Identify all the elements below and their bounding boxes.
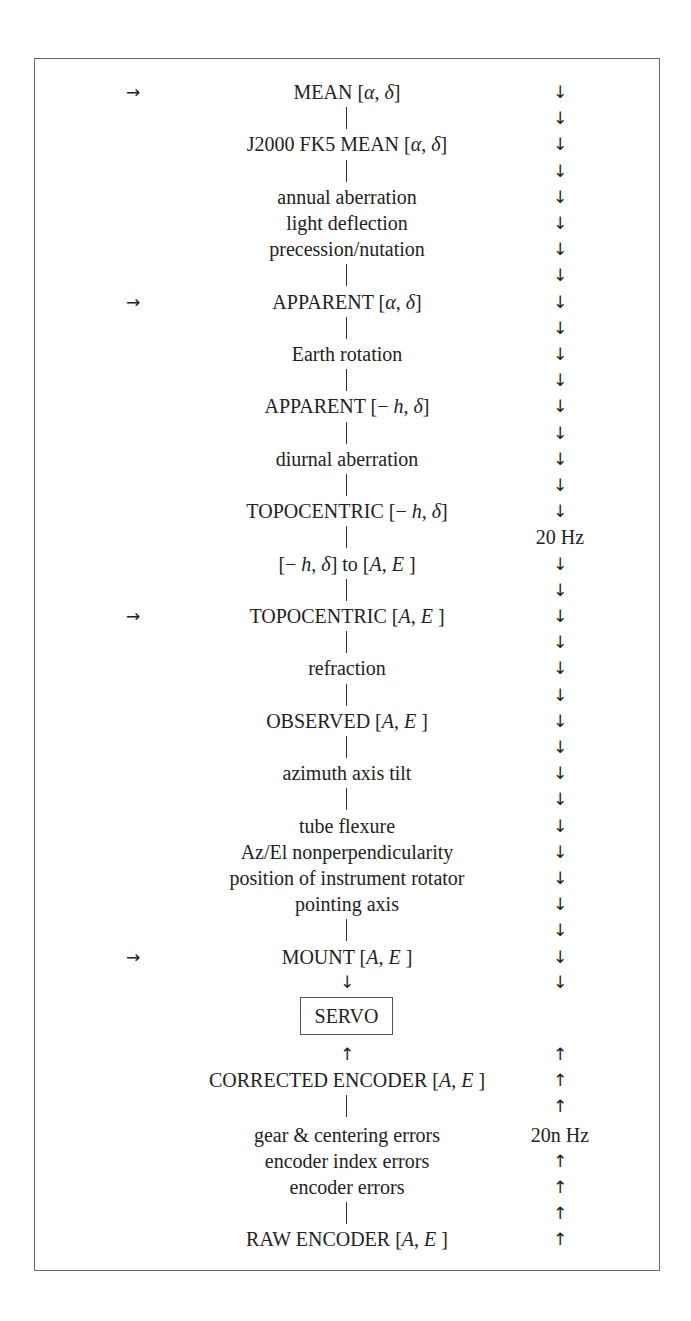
node-apparent-h-delta: APPARENT [− h, δ] <box>264 393 429 419</box>
row-light-deflection: light deflection ↓ <box>0 210 691 236</box>
connector-line <box>346 684 347 706</box>
step-encoder-errors: encoder errors <box>290 1174 405 1200</box>
node-topocentric-a-e: TOPOCENTRIC [A, E ] <box>249 603 444 629</box>
down-arrow-icon: ↓ <box>553 105 567 131</box>
step-gear-centering-errors: gear & centering errors <box>254 1122 440 1148</box>
row-connector: ↑ <box>0 1093 691 1119</box>
row-precession-nutation: precession/nutation ↓ <box>0 236 691 262</box>
down-arrow-icon: ↓ <box>553 969 567 995</box>
row-gear-centering: gear & centering errors 20n Hz <box>0 1122 691 1148</box>
up-arrow-icon: ↑ <box>553 1041 567 1067</box>
step-light-deflection: light deflection <box>286 210 408 236</box>
down-arrow-icon: ↓ <box>553 839 567 865</box>
row-connector: ↑ <box>0 1200 691 1226</box>
up-arrow-icon: ↑ <box>340 1041 354 1067</box>
row-corrected-encoder: CORRECTED ENCODER [A, E ] ↑ <box>0 1067 691 1093</box>
down-arrow-icon: ↓ <box>553 236 567 262</box>
rate-label-20n-hz: 20n Hz <box>531 1122 589 1148</box>
node-mount-a-e: MOUNT [A, E ] <box>282 944 413 970</box>
row-observed: OBSERVED [A, E ] ↓ <box>0 708 691 734</box>
connector-line <box>346 1095 347 1117</box>
row-topocentric-h-delta: TOPOCENTRIC [− h, δ] ↓ <box>0 498 691 524</box>
servo-box: SERVO <box>300 997 393 1035</box>
node-raw-encoder: RAW ENCODER [A, E ] <box>246 1226 448 1252</box>
down-arrow-icon: ↓ <box>553 786 567 812</box>
down-arrow-icon: ↓ <box>553 917 567 943</box>
row-apparent-alpha-delta: → APPARENT [α, δ] ↓ <box>0 289 691 315</box>
up-arrow-icon: ↑ <box>553 1093 567 1119</box>
row-connector: ↓ <box>0 420 691 446</box>
up-arrow-icon: ↑ <box>553 1067 567 1093</box>
up-arrow-icon: ↑ <box>553 1174 567 1200</box>
row-refraction: refraction ↓ <box>0 655 691 681</box>
step-pointing-axis: pointing axis <box>295 891 399 917</box>
down-arrow-icon: ↓ <box>553 367 567 393</box>
row-apparent-h-delta: APPARENT [− h, δ] ↓ <box>0 393 691 419</box>
row-h-delta-to-a-e: [− h, δ] to [A, E ] ↓ <box>0 551 691 577</box>
row-connector: ↓ <box>0 917 691 943</box>
row-az-el-nonperpendicularity: Az/El nonperpendicularity ↓ <box>0 839 691 865</box>
row-encoder-index-errors: encoder index errors ↑ <box>0 1148 691 1174</box>
down-arrow-icon: ↓ <box>553 629 567 655</box>
step-encoder-index-errors: encoder index errors <box>265 1148 429 1174</box>
down-arrow-icon: ↓ <box>553 655 567 681</box>
row-connector: ↓ <box>0 472 691 498</box>
step-instrument-rotator-position: position of instrument rotator <box>230 865 465 891</box>
down-arrow-icon: ↓ <box>553 131 567 157</box>
step-refraction: refraction <box>308 655 386 681</box>
down-arrow-icon: ↓ <box>553 813 567 839</box>
step-tube-flexure: tube flexure <box>299 813 395 839</box>
down-arrow-icon: ↓ <box>553 158 567 184</box>
connector-line <box>346 526 347 548</box>
right-arrow-icon: → <box>126 603 140 629</box>
up-arrow-icon: ↑ <box>553 1148 567 1174</box>
connector-line <box>346 1202 347 1224</box>
connector-line <box>346 736 347 758</box>
row-connector: ↓ <box>0 262 691 288</box>
row-mean: → MEAN [α, δ] ↓ <box>0 79 691 105</box>
down-arrow-icon: ↓ <box>553 891 567 917</box>
up-arrow-icon: ↑ <box>553 1200 567 1226</box>
down-arrow-icon: ↓ <box>553 944 567 970</box>
down-arrow-icon: ↓ <box>553 393 567 419</box>
connector-line <box>346 631 347 653</box>
step-precession-nutation: precession/nutation <box>269 236 425 262</box>
right-arrow-icon: → <box>126 79 140 105</box>
down-arrow-icon: ↓ <box>553 865 567 891</box>
down-arrow-icon: ↓ <box>553 708 567 734</box>
down-arrow-icon: ↓ <box>553 341 567 367</box>
down-arrow-icon: ↓ <box>553 734 567 760</box>
row-connector-rate: 20 Hz <box>0 524 691 550</box>
row-from-encoder: ↑ ↑ <box>0 1041 691 1067</box>
down-arrow-icon: ↓ <box>553 262 567 288</box>
down-arrow-icon: ↓ <box>553 446 567 472</box>
down-arrow-icon: ↓ <box>340 969 354 995</box>
row-instrument-rotator: position of instrument rotator ↓ <box>0 865 691 891</box>
down-arrow-icon: ↓ <box>553 184 567 210</box>
right-arrow-icon: → <box>126 944 140 970</box>
rate-label-20hz: 20 Hz <box>536 524 584 550</box>
row-encoder-errors: encoder errors ↑ <box>0 1174 691 1200</box>
row-topocentric-a-e: → TOPOCENTRIC [A, E ] ↓ <box>0 603 691 629</box>
row-diurnal-aberration: diurnal aberration ↓ <box>0 446 691 472</box>
connector-line <box>346 919 347 941</box>
connector-line <box>346 422 347 444</box>
down-arrow-icon: ↓ <box>553 472 567 498</box>
down-arrow-icon: ↓ <box>553 79 567 105</box>
node-topocentric-h-delta: TOPOCENTRIC [− h, δ] <box>246 498 447 524</box>
row-tube-flexure: tube flexure ↓ <box>0 813 691 839</box>
down-arrow-icon: ↓ <box>553 420 567 446</box>
down-arrow-icon: ↓ <box>553 603 567 629</box>
down-arrow-icon: ↓ <box>553 682 567 708</box>
connector-line <box>346 160 347 182</box>
right-arrow-icon: → <box>126 289 140 315</box>
row-connector: ↓ <box>0 105 691 131</box>
down-arrow-icon: ↓ <box>553 210 567 236</box>
connector-line <box>346 788 347 810</box>
node-corrected-encoder: CORRECTED ENCODER [A, E ] <box>209 1067 485 1093</box>
step-h-delta-to-a-e: [− h, δ] to [A, E ] <box>278 551 415 577</box>
down-arrow-icon: ↓ <box>553 577 567 603</box>
step-azimuth-axis-tilt: azimuth axis tilt <box>283 760 412 786</box>
row-annual-aberration: annual aberration ↓ <box>0 184 691 210</box>
row-raw-encoder: RAW ENCODER [A, E ] ↑ <box>0 1226 691 1252</box>
